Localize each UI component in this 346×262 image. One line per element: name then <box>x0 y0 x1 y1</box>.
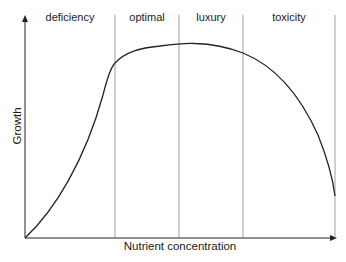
x-axis-arrow-icon <box>330 235 337 241</box>
zone-label-optimal: optimal <box>129 11 164 23</box>
y-axis-label: Growth <box>11 107 23 144</box>
zone-label-deficiency: deficiency <box>46 11 95 23</box>
y-axis-arrow-icon <box>22 15 28 22</box>
growth-diagram <box>0 0 346 262</box>
x-axis-label: Nutrient concentration <box>124 240 237 252</box>
zone-label-luxury: luxury <box>196 11 225 23</box>
zone-label-toxicity: toxicity <box>272 11 306 23</box>
growth-curve <box>25 43 335 238</box>
